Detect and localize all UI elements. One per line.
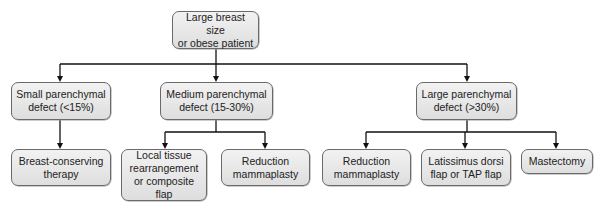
node-large-defect: Large parenchymal defect (>30%)	[416, 82, 517, 120]
node-reduction-mammaplasty-large-label: Reduction mammaplasty	[334, 155, 399, 181]
node-root: Large breast size or obese patient	[172, 11, 259, 49]
node-local-tissue-label: Local tissue rearrangement or composite …	[125, 149, 203, 201]
node-reduction-mammaplasty-medium: Reduction mammaplasty	[221, 149, 310, 186]
node-local-tissue: Local tissue rearrangement or composite …	[121, 149, 207, 201]
node-reduction-mammaplasty-large: Reduction mammaplasty	[322, 149, 411, 186]
node-reduction-mammaplasty-medium-label: Reduction mammaplasty	[233, 155, 298, 181]
node-large-defect-label: Large parenchymal defect (>30%)	[422, 88, 512, 114]
node-medium-defect-label: Medium parenchymal defect (15-30%)	[166, 88, 266, 114]
node-mastectomy: Mastectomy	[521, 149, 593, 174]
node-medium-defect: Medium parenchymal defect (15-30%)	[160, 82, 273, 120]
node-mastectomy-label: Mastectomy	[529, 155, 586, 168]
node-small-defect: Small parenchymal defect (<15%)	[11, 82, 111, 120]
node-root-label: Large breast size or obese patient	[176, 11, 255, 50]
node-small-defect-label: Small parenchymal defect (<15%)	[16, 88, 105, 114]
node-latissimus-dorsi: Latissimus dorsi flap or TAP flap	[421, 149, 511, 186]
node-latissimus-dorsi-label: Latissimus dorsi flap or TAP flap	[428, 155, 503, 181]
node-breast-conserving: Breast-conserving therapy	[11, 149, 111, 186]
node-breast-conserving-label: Breast-conserving therapy	[19, 155, 104, 181]
